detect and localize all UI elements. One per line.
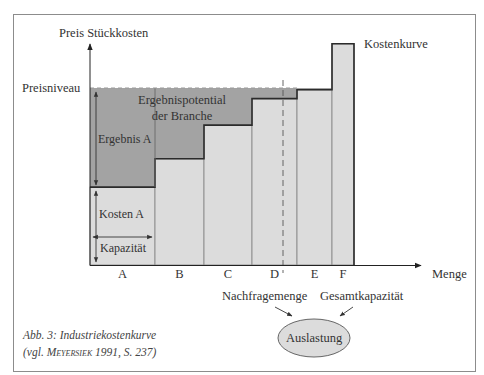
- bar-d: [252, 99, 297, 265]
- result-area-d: [252, 88, 297, 99]
- y-axis-label: Preis Stückkosten: [59, 26, 149, 40]
- utilization-label: Auslastung: [286, 331, 343, 345]
- category-label-e: E: [311, 267, 319, 281]
- bar-b: [155, 159, 204, 265]
- demand-label: Nachfragemenge: [222, 289, 308, 303]
- caption-line2: (vgl. Meyersiek 1991, S. 237): [23, 346, 157, 359]
- bar-c: [204, 125, 252, 265]
- category-label-a: A: [118, 267, 127, 281]
- cost-curve-label: Kostenkurve: [364, 37, 428, 51]
- caption-author: Meyersiek: [46, 346, 93, 358]
- capacity-label: Kapazität: [100, 241, 147, 255]
- bar-f: [332, 44, 354, 265]
- result-a-label: Ergebnis A: [98, 132, 152, 146]
- bar-e: [297, 90, 332, 265]
- potential-label-line1: Ergebnispotential: [138, 93, 226, 107]
- cost-a-label: Kosten A: [99, 207, 144, 221]
- price-level-label: Preisniveau: [22, 81, 81, 95]
- category-label-c: C: [224, 267, 232, 281]
- x-axis-label: Menge: [432, 267, 467, 281]
- total-capacity-label: Gesamtkapazität: [320, 289, 404, 303]
- category-label-b: B: [175, 267, 183, 281]
- caption-line1: Abb. 3: Industriekostenkurve: [22, 329, 156, 341]
- caption-suffix: 1991, S. 237): [92, 346, 156, 359]
- potential-label-line2: der Branche: [152, 109, 213, 123]
- caption-prefix: (vgl.: [23, 346, 47, 359]
- figure-canvas: ABCDEF Preis Stückkosten Preisniveau Erg…: [0, 0, 484, 375]
- category-label-f: F: [340, 267, 347, 281]
- category-label-d: D: [270, 267, 279, 281]
